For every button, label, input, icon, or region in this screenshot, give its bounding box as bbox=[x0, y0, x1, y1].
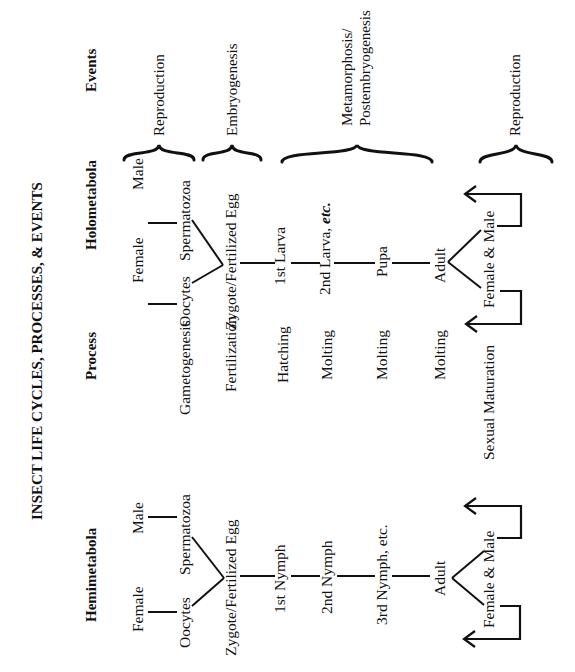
event-reproduction-1: Reproduction bbox=[151, 54, 167, 136]
holo-zygote-label: Zygote/Fertilized Egg bbox=[222, 193, 239, 330]
hemi-stage-adult: Adult bbox=[431, 560, 448, 596]
diagram-title: INSECT LIFE CYCLES, PROCESSES, & EVENTS bbox=[29, 182, 45, 520]
holo-stage-2nd-larva-etc: etc. bbox=[316, 202, 333, 224]
hemi-male-label: Male bbox=[129, 502, 146, 534]
holo-spermatozoa-label: Spermatozoa bbox=[176, 180, 193, 261]
brace-embryogenesis bbox=[203, 145, 261, 160]
event-reproduction-2: Reproduction bbox=[507, 54, 523, 136]
hemi-spermatozoa-label: Spermatozoa bbox=[176, 494, 193, 575]
process-gametogenesis: Gametogenesis bbox=[176, 320, 193, 415]
event-metamorphosis-line1: Metamorphosis/ bbox=[339, 28, 355, 126]
hemi-stage-1st-nymph: 1st Nymph bbox=[271, 544, 288, 613]
process-hatching: Hatching bbox=[274, 326, 291, 383]
life-cycle-diagram: INSECT LIFE CYCLES, PROCESSES, & EVENTS … bbox=[0, 0, 575, 672]
holo-female-label: Female bbox=[129, 237, 146, 283]
hemi-oocytes-label: Oocytes bbox=[176, 597, 193, 648]
holo-oocytes-label: Oocytes bbox=[176, 276, 193, 327]
column-header-hemimetabola: Hemimetabola bbox=[83, 527, 99, 622]
event-metamorphosis-line2: Postembryogenesis bbox=[357, 10, 373, 126]
holo-adult-male-branch bbox=[448, 230, 481, 262]
holo-adult-female-branch bbox=[448, 262, 481, 288]
process-molting-1: Molting bbox=[318, 330, 335, 380]
holo-stage-2nd-larva: 2nd Larva, etc. bbox=[316, 202, 333, 295]
holo-stage-pupa: Pupa bbox=[373, 246, 390, 277]
hemi-female-label: Female bbox=[129, 586, 146, 632]
column-header-events: Events bbox=[83, 49, 99, 93]
brace-reproduction-2 bbox=[480, 145, 552, 162]
hemi-offspring-label: Female & Male bbox=[480, 531, 497, 628]
holo-sperm-fusion-line bbox=[192, 220, 223, 265]
hemi-stage-3rd-nymph: 3rd Nymph, etc. bbox=[373, 524, 390, 625]
hemi-oocyte-fusion-line bbox=[192, 578, 224, 606]
column-header-process: Process bbox=[83, 332, 99, 380]
event-embryogenesis: Embryogenesis bbox=[224, 43, 240, 136]
holo-oocyte-fusion-line bbox=[192, 265, 223, 283]
holo-stage-2nd-larva-text: 2nd Larva, bbox=[316, 224, 333, 295]
column-header-holometabola: Holometabola bbox=[83, 160, 99, 250]
hemi-sperm-fusion-line bbox=[192, 537, 224, 578]
hemi-stage-2nd-nymph: 2nd Nymph bbox=[318, 540, 335, 614]
process-molting-3: Molting bbox=[431, 330, 448, 380]
holo-stage-adult: Adult bbox=[431, 247, 448, 283]
process-sexual-maturation: Sexual Maturation bbox=[480, 345, 497, 460]
process-molting-2: Molting bbox=[373, 330, 390, 380]
brace-metamorphosis bbox=[282, 145, 432, 162]
brace-reproduction-1-curve bbox=[124, 145, 194, 160]
hemi-zygote-label: Zygote/Fertilized Egg bbox=[222, 519, 239, 656]
holo-stage-1st-larva: 1st Larva bbox=[271, 227, 288, 285]
holo-offspring-label: Female & Male bbox=[480, 211, 497, 308]
holo-male-label: Male bbox=[129, 158, 146, 190]
